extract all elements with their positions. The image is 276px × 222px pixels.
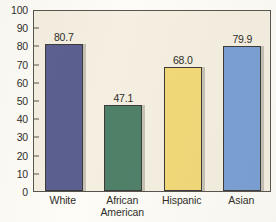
y-axis-tick-label: 20 — [17, 150, 28, 162]
y-axis-tick-mark — [34, 82, 39, 83]
bar — [45, 44, 83, 191]
y-axis-tick-label: 70 — [17, 59, 28, 71]
y-axis-tick-mark — [34, 155, 39, 156]
bar-value-label: 47.1 — [113, 92, 133, 104]
y-axis-tick-label: 40 — [17, 113, 28, 125]
y-axis-tick-label: 80 — [17, 40, 28, 52]
x-axis-tick-label-line: American — [100, 206, 144, 218]
y-axis-tick-mark — [34, 101, 39, 102]
y-axis-tick-mark — [34, 137, 39, 138]
y-axis-tick-label: 0 — [22, 186, 28, 198]
bar-value-label: 79.9 — [232, 33, 252, 45]
x-axis-tick-label: White — [50, 194, 76, 206]
x-axis-tick-label-line: White — [50, 194, 76, 206]
y-axis-tick-label: 100 — [11, 4, 28, 16]
y-axis-tick-mark — [34, 119, 39, 120]
bar — [104, 105, 142, 191]
bar-value-label: 68.0 — [173, 54, 193, 66]
y-axis-tick-label: 30 — [17, 131, 28, 143]
bar-value-label: 80.7 — [54, 31, 74, 43]
y-axis-tick-label: 10 — [17, 168, 28, 180]
y-axis-tick-mark — [34, 28, 39, 29]
y-axis: 1009080706050403020100 — [0, 10, 31, 192]
x-axis-tick-label: AfricanAmerican — [100, 194, 144, 218]
x-axis-tick-label-line: Hispanic — [162, 194, 201, 206]
x-axis-tick-label: Asian — [228, 194, 254, 206]
y-axis-tick-mark — [34, 46, 39, 47]
y-axis-tick-label: 60 — [17, 77, 28, 89]
chart-title — [40, 0, 240, 4]
x-axis-tick-label: Hispanic — [162, 194, 201, 206]
y-axis-tick-mark — [34, 173, 39, 174]
y-axis-tick-mark — [34, 64, 39, 65]
y-axis-tick-label: 90 — [17, 22, 28, 34]
bar-chart: 1009080706050403020100 80.747.168.079.9 … — [0, 0, 276, 222]
bar — [164, 67, 202, 191]
y-axis-tick-label: 50 — [17, 95, 28, 107]
plot-area: 80.747.168.079.9 — [33, 10, 271, 192]
x-axis-tick-label-line: Asian — [228, 194, 254, 206]
x-axis-tick-label-line: African — [100, 194, 144, 206]
bar — [223, 46, 261, 191]
x-axis: WhiteAfricanAmericanHispanicAsian — [33, 194, 271, 222]
